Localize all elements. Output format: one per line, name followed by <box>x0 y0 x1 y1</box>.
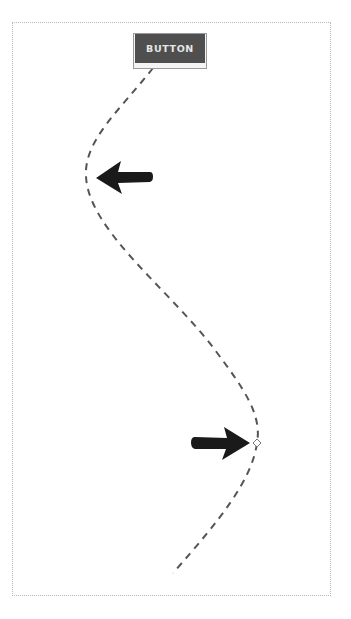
dashed-motion-path <box>86 68 258 573</box>
path-point-marker[interactable] <box>253 439 261 447</box>
diagram-canvas <box>0 0 351 619</box>
left-arrow-icon <box>96 161 153 194</box>
right-arrow-icon <box>191 427 250 460</box>
diagram-button[interactable]: BUTTON <box>135 34 205 63</box>
